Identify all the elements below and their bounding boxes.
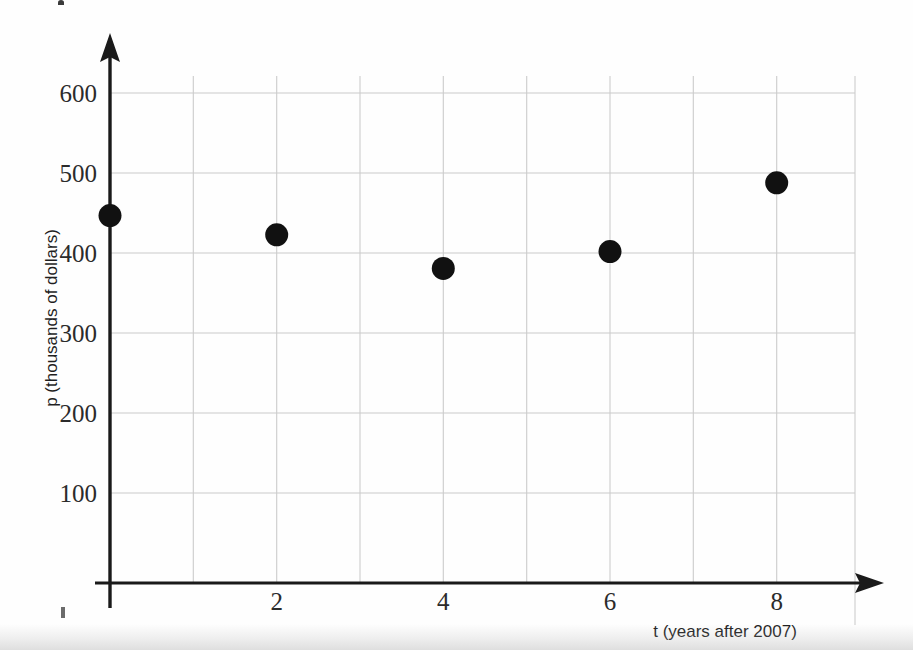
y-tick-500: 500 [60, 160, 98, 187]
x-axis-title: t (years after 2007) [653, 622, 797, 641]
data-point-t8[interactable] [765, 171, 788, 194]
data-point-t4[interactable] [432, 257, 455, 280]
data-point-t2[interactable] [265, 223, 288, 246]
y-tick-200: 200 [60, 400, 98, 427]
y-tick-100: 100 [60, 480, 98, 507]
data-point-t6[interactable] [599, 240, 622, 263]
y-tick-labels: 600 500 400 300 200 100 [60, 80, 98, 507]
y-axis [100, 33, 120, 608]
scatter-plot-figure: 600 500 400 300 200 100 2 4 6 8 p (thous… [0, 0, 913, 650]
data-point-t0[interactable] [99, 204, 122, 227]
y-tick-400: 400 [60, 240, 98, 267]
plot-canvas: 600 500 400 300 200 100 2 4 6 8 p (thous… [0, 0, 913, 650]
x-tick-2: 2 [270, 588, 283, 615]
x-tick-labels: 2 4 6 8 [270, 588, 783, 615]
x-tick-8: 8 [770, 588, 783, 615]
x-axis [95, 573, 884, 593]
grid-horizontal [110, 93, 855, 493]
y-tick-600: 600 [60, 80, 98, 107]
grid-vertical [193, 76, 855, 625]
x-tick-4: 4 [437, 588, 450, 615]
x-tick-6: 6 [604, 588, 617, 615]
y-tick-300: 300 [60, 320, 98, 347]
y-axis-title: p (thousands of dollars) [42, 229, 61, 407]
